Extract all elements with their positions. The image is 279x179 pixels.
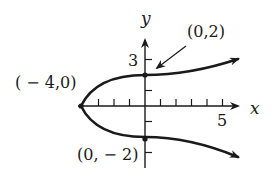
point-top-label: (0,2) (187, 22, 225, 41)
point-top-pointer-arrow (157, 46, 186, 68)
x-axis-ticks (99, 99, 223, 106)
parabola-graph: y x 3 5 (0,2) ( − 4,0) (0, − 2) (0, 0, 279, 179)
point-vertex-label: ( − 4,0) (15, 73, 77, 92)
tick-label-5: 5 (217, 111, 227, 130)
point-top (142, 72, 147, 77)
point-vertex (78, 103, 83, 108)
tick-label-3: 3 (128, 51, 138, 70)
y-axis-label: y (140, 8, 151, 28)
y-axis (145, 40, 152, 168)
x-axis-label: x (250, 98, 260, 118)
point-bottom (142, 136, 147, 141)
x-axis (78, 99, 238, 106)
point-bottom-label: (0, − 2) (77, 145, 139, 164)
